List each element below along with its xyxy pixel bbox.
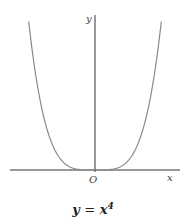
caption-exponent: 4 xyxy=(108,201,114,211)
figure-caption: y = x4 xyxy=(0,201,186,217)
caption-base: x xyxy=(100,202,108,217)
x-axis-label: x xyxy=(167,172,173,183)
caption-equals: = xyxy=(84,202,95,217)
caption-lhs: y xyxy=(72,202,80,217)
plot-area xyxy=(0,0,186,222)
origin-label: O xyxy=(89,174,97,185)
y-axis-label: y xyxy=(86,13,92,24)
